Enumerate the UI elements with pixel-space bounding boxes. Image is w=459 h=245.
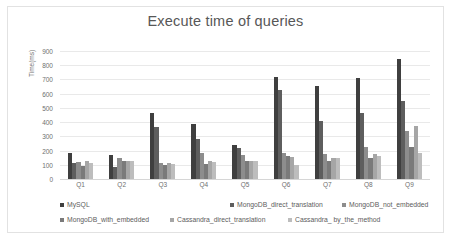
y-axis-tick: 300 xyxy=(42,133,53,140)
legend-swatch-icon xyxy=(230,203,234,207)
x-axis-tick: Q3 xyxy=(142,181,183,193)
legend-swatch-icon xyxy=(60,218,64,222)
legend-label: Cassandra_direct_translation xyxy=(177,216,265,223)
legend-swatch-icon xyxy=(288,218,292,222)
plot-area xyxy=(60,51,430,179)
legend-label: MongoDB_direct_translation xyxy=(237,201,323,208)
x-axis-tick: Q5 xyxy=(224,181,265,193)
legend-label: Cassandra_ by_the_method xyxy=(295,216,380,223)
bar-group-q2 xyxy=(101,51,142,179)
x-axis-tick: Q9 xyxy=(389,181,430,193)
bar-series-layer xyxy=(60,51,430,179)
bar-group-q6 xyxy=(266,51,307,179)
bar xyxy=(377,156,381,179)
x-axis-tick: Q8 xyxy=(348,181,389,193)
legend-label: MongoDB_not_embedded xyxy=(349,201,428,208)
x-axis-tick: Q4 xyxy=(183,181,224,193)
y-axis-tick: 400 xyxy=(42,119,53,126)
x-axis-tick: Q6 xyxy=(266,181,307,193)
bar-group-q9 xyxy=(389,51,430,179)
x-axis-tick: Q1 xyxy=(60,181,101,193)
legend-item[interactable]: MongoDB_direct_translation xyxy=(230,201,342,208)
bar-group-q7 xyxy=(307,51,348,179)
legend-item[interactable]: MongoDB_not_embedded xyxy=(342,201,428,208)
legend-item[interactable]: Cassandra_direct_translation xyxy=(170,216,288,223)
x-axis-tick-labels: Q1Q2Q3Q4Q5Q6Q7Q8Q9 xyxy=(60,181,430,193)
legend-row-2: MongoDB_with_embeddedCassandra_direct_tr… xyxy=(60,212,440,227)
bar xyxy=(294,165,298,179)
legend-item[interactable]: MongoDB_with_embedded xyxy=(60,216,170,223)
bar-group-q3 xyxy=(142,51,183,179)
legend-row-1: MySQLMongoDB_direct_translationMongoDB_n… xyxy=(60,197,440,212)
bar xyxy=(171,164,175,179)
x-axis-tick: Q7 xyxy=(307,181,348,193)
bar-group-q4 xyxy=(183,51,224,179)
y-axis-tick: 600 xyxy=(42,90,53,97)
chart-legend: MySQLMongoDB_direct_translationMongoDB_n… xyxy=(60,197,440,227)
y-axis-tick: 700 xyxy=(42,76,53,83)
y-axis-tick: 100 xyxy=(42,161,53,168)
chart-title: Execute time of queries xyxy=(8,13,443,29)
y-axis-tick-labels: 9008007006005004003002001000 xyxy=(8,51,58,179)
y-axis-tick: 900 xyxy=(42,48,53,55)
bar xyxy=(253,161,257,179)
legend-item[interactable]: Cassandra_ by_the_method xyxy=(288,216,380,223)
chart-container: Execute time of queries Time(ms) 9008007… xyxy=(7,6,444,233)
legend-label: MySQL xyxy=(67,201,90,208)
x-axis-tick: Q2 xyxy=(101,181,142,193)
legend-swatch-icon xyxy=(60,203,64,207)
bar-group-q1 xyxy=(60,51,101,179)
gridline xyxy=(60,179,430,180)
y-axis-tick: 800 xyxy=(42,62,53,69)
bar xyxy=(130,161,134,179)
y-axis-tick: 500 xyxy=(42,104,53,111)
bar xyxy=(418,153,422,179)
bar xyxy=(89,163,93,179)
bar xyxy=(336,158,340,179)
y-axis-tick: 0 xyxy=(49,176,53,183)
legend-swatch-icon xyxy=(170,218,174,222)
bar xyxy=(212,162,216,179)
bar-group-q8 xyxy=(348,51,389,179)
y-axis-tick: 200 xyxy=(42,147,53,154)
legend-swatch-icon xyxy=(342,203,346,207)
legend-item[interactable]: MySQL xyxy=(60,201,230,208)
bar-group-q5 xyxy=(224,51,265,179)
legend-label: MongoDB_with_embedded xyxy=(67,216,149,223)
